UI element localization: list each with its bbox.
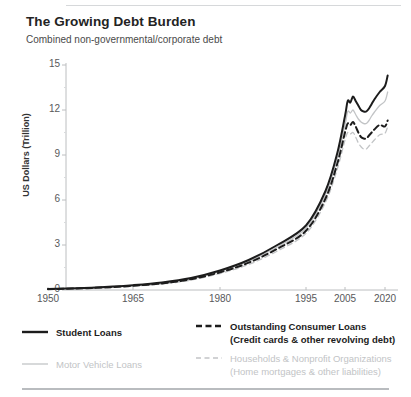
legend-label: Student Loans — [56, 327, 122, 340]
legend-label-line1: Motor Vehicle Loans — [56, 359, 142, 372]
chart-legend: Student LoansOutstanding Consumer Loans(… — [0, 322, 411, 386]
legend-swatch-dashed-icon — [196, 322, 222, 332]
series-line — [48, 92, 388, 289]
legend-label-line1: Households & Nonprofit Organizations — [230, 353, 392, 366]
series-line — [48, 76, 388, 289]
chart-card: The Growing Debt Burden Combined non-gov… — [0, 0, 411, 397]
chart-plot-area — [0, 0, 411, 320]
legend-label-line2: (Home mortgages & other liabilities) — [230, 366, 392, 379]
line-chart: US Dollars (Trillion) 03691215 195019651… — [0, 0, 411, 320]
series-line — [48, 127, 388, 290]
bottom-divider — [22, 388, 389, 390]
series-line — [48, 121, 388, 290]
legend-label: Outstanding Consumer Loans(Credit cards … — [230, 321, 395, 346]
legend-label-line1: Outstanding Consumer Loans — [230, 321, 395, 334]
legend-label-line2: (Credit cards & other revolving debt) — [230, 334, 395, 347]
legend-label: Motor Vehicle Loans — [56, 359, 142, 372]
legend-label-line1: Student Loans — [56, 327, 122, 340]
legend-swatch-dashed-icon — [196, 354, 222, 364]
legend-swatch-solid-icon — [22, 328, 48, 338]
legend-label: Households & Nonprofit Organizations(Hom… — [230, 353, 392, 378]
legend-swatch-solid-icon — [22, 360, 48, 370]
